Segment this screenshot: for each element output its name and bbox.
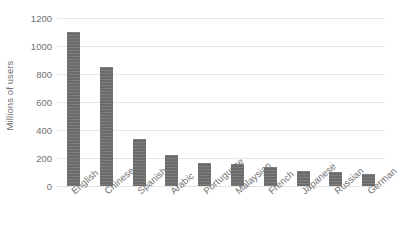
y-axis-tick-label: 200 — [36, 153, 52, 164]
y-axis-tick-label: 0 — [47, 181, 52, 192]
y-axis-title: Millions of users — [0, 0, 20, 190]
y-axis-tick-label: 800 — [36, 69, 52, 80]
y-axis-title-text: Millions of users — [5, 60, 16, 130]
bar — [100, 67, 113, 186]
y-axis-tick-label: 600 — [36, 97, 52, 108]
y-axis-tick-label: 1000 — [31, 41, 52, 52]
y-axis-tick-labels: 020040060080010001200 — [18, 0, 56, 192]
bar — [67, 32, 80, 186]
y-axis-tick-label: 400 — [36, 125, 52, 136]
plot-area — [57, 18, 385, 186]
x-axis-tick-labels: EnglishChineseSpanishArabicPortugueseMal… — [57, 188, 398, 245]
bar-chart-figure: Millions of users 020040060080010001200 … — [0, 0, 398, 245]
y-axis-tick-label: 1200 — [31, 13, 52, 24]
bars-group — [57, 18, 385, 186]
